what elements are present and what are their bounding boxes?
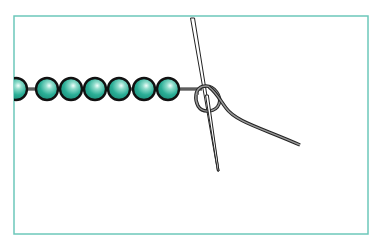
bead	[84, 78, 106, 100]
bead	[133, 78, 155, 100]
bead	[108, 78, 130, 100]
bead	[36, 78, 58, 100]
bead	[60, 78, 82, 100]
bead	[5, 78, 27, 100]
bead	[157, 78, 179, 100]
illustration-frame	[14, 16, 368, 234]
bead-knot-illustration	[0, 0, 381, 238]
